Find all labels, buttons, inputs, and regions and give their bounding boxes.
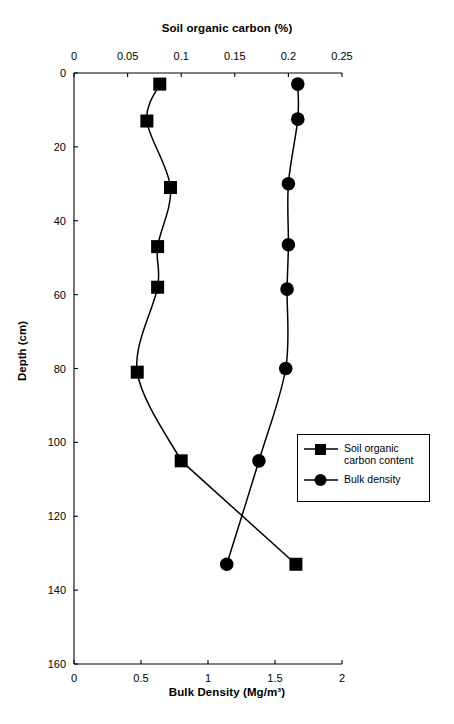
top-axis-tick-0.05: 0.05 xyxy=(117,50,138,62)
left-axis-tick-80: 80 xyxy=(54,363,66,375)
data-point xyxy=(151,281,164,294)
data-point xyxy=(131,366,144,379)
series-bulk-density xyxy=(220,77,305,571)
top-axis-tick-0: 0 xyxy=(71,50,77,62)
top-axis-tick-0.1: 0.1 xyxy=(174,50,189,62)
data-point xyxy=(282,238,296,252)
left-axis-tick-60: 60 xyxy=(54,289,66,301)
data-point xyxy=(164,181,177,194)
top-axis-tick-0.2: 0.2 xyxy=(281,50,296,62)
left-axis-tick-0: 0 xyxy=(60,67,66,79)
left-axis-tick-120: 120 xyxy=(48,510,66,522)
left-axis-tick-100: 100 xyxy=(48,436,66,448)
left-axis-tick-160: 160 xyxy=(48,658,66,670)
top-axis-tick-0.25: 0.25 xyxy=(331,50,352,62)
data-point xyxy=(291,77,305,91)
data-point xyxy=(252,454,266,468)
legend-label-soil-organic-carbon: Soil organic carbon content xyxy=(344,442,428,466)
data-point xyxy=(151,240,164,253)
bottom-axis-tick-2: 2 xyxy=(339,672,345,684)
data-point xyxy=(279,362,293,376)
data-point xyxy=(220,557,234,571)
bottom-axis-tick-0: 0 xyxy=(71,672,77,684)
bottom-axis-tick-0.5: 0.5 xyxy=(133,672,148,684)
data-point xyxy=(140,115,153,128)
legend-label-bulk-density: Bulk density xyxy=(344,473,428,485)
data-point xyxy=(291,112,305,126)
left-axis-tick-40: 40 xyxy=(54,215,66,227)
series-soil-organic-carbon xyxy=(131,78,303,571)
data-point xyxy=(280,282,294,296)
top-axis-tick-0.15: 0.15 xyxy=(224,50,245,62)
data-point xyxy=(153,78,166,91)
plot-area xyxy=(0,0,454,724)
bottom-axis-tick-1.5: 1.5 xyxy=(267,672,282,684)
left-axis-tick-140: 140 xyxy=(48,584,66,596)
data-point xyxy=(289,558,302,571)
data-point xyxy=(175,454,188,467)
soil-profile-chart: Soil organic carbon (%) Bulk Density (Mg… xyxy=(0,0,454,724)
bottom-axis-tick-1: 1 xyxy=(205,672,211,684)
left-axis-tick-20: 20 xyxy=(54,141,66,153)
legend: Soil organic carbon content Bulk density xyxy=(297,434,430,502)
data-point xyxy=(282,177,296,191)
